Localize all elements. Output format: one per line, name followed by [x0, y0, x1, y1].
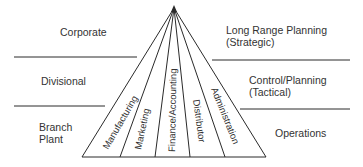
function-label-marketing: Marketing	[132, 107, 151, 150]
branch-line2: Plant	[39, 133, 72, 145]
strategic-line1: Long Range Planning	[226, 24, 327, 36]
level-label-tactical: Control/Planning (Tactical)	[249, 74, 327, 98]
level-label-divisional: Divisional	[41, 75, 86, 87]
tactical-line1: Control/Planning	[249, 74, 327, 86]
level-label-branch-plant: Branch Plant	[39, 121, 72, 145]
branch-line1: Branch	[39, 121, 72, 133]
function-label-administration: Administration	[209, 86, 242, 146]
level-label-operations: Operations	[275, 127, 326, 139]
level-label-strategic: Long Range Planning (Strategic)	[226, 24, 327, 48]
apex-icon	[171, 5, 177, 12]
tactical-line2: (Tactical)	[249, 86, 327, 98]
level-label-corporate: Corporate	[60, 26, 107, 38]
function-label-distributor: Distributor	[191, 99, 208, 143]
function-label-finance: Finance/Accounting	[166, 68, 178, 152]
strategic-line2: (Strategic)	[226, 36, 327, 48]
